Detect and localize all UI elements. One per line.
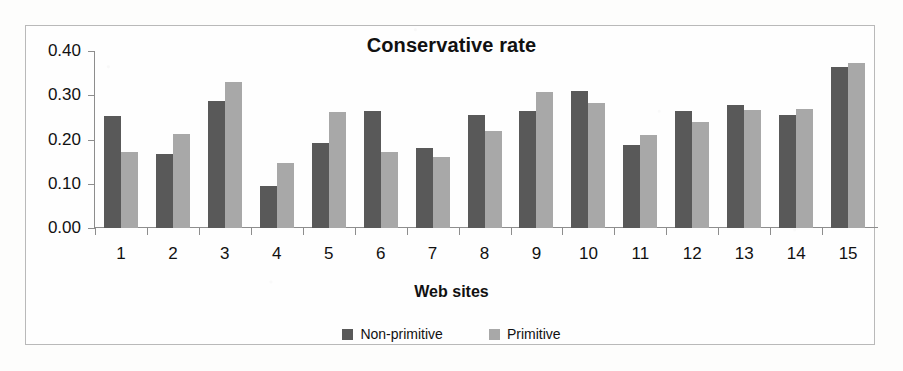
legend-swatch-icon bbox=[489, 329, 500, 340]
bar-non-primitive[interactable] bbox=[571, 91, 588, 228]
x-axis-tick bbox=[770, 228, 771, 235]
chart-legend: Non-primitivePrimitive bbox=[0, 326, 903, 342]
y-axis-tick bbox=[88, 228, 95, 229]
plot-area: 0.400.300.200.100.00 1234567891011121314… bbox=[95, 51, 874, 228]
x-axis-tick-label: 5 bbox=[303, 244, 355, 264]
bar-primitive[interactable] bbox=[121, 152, 138, 228]
x-axis-tick-label: 11 bbox=[614, 244, 666, 264]
bar-group: 6 bbox=[355, 51, 407, 228]
bar-primitive[interactable] bbox=[485, 131, 502, 228]
x-axis-tick bbox=[251, 228, 252, 235]
bar-primitive[interactable] bbox=[692, 122, 709, 228]
legend-item[interactable]: Non-primitive bbox=[342, 326, 442, 342]
x-axis-tick bbox=[303, 228, 304, 235]
bar-primitive[interactable] bbox=[381, 152, 398, 228]
bar-group: 1 bbox=[95, 51, 147, 228]
bar-primitive[interactable] bbox=[744, 110, 761, 228]
bar-primitive[interactable] bbox=[225, 82, 242, 228]
x-axis-tick bbox=[355, 228, 356, 235]
bar-primitive[interactable] bbox=[433, 157, 450, 228]
bar-non-primitive[interactable] bbox=[675, 111, 692, 228]
bar-group: 4 bbox=[251, 51, 303, 228]
y-axis-tick-label: 0.30 bbox=[21, 85, 81, 105]
bar-group: 13 bbox=[718, 51, 770, 228]
x-axis-tick-label: 4 bbox=[251, 244, 303, 264]
y-axis-tick bbox=[88, 95, 95, 96]
x-axis-tick-label: 1 bbox=[95, 244, 147, 264]
y-axis-tick-label: 0.00 bbox=[21, 218, 81, 238]
x-axis-tick bbox=[459, 228, 460, 235]
x-axis-tick bbox=[199, 228, 200, 235]
bar-group: 14 bbox=[770, 51, 822, 228]
x-axis-tick bbox=[95, 228, 96, 235]
y-axis-tick bbox=[88, 140, 95, 141]
y-axis-tick-label: 0.20 bbox=[21, 130, 81, 150]
y-axis-tick bbox=[88, 51, 95, 52]
bar-non-primitive[interactable] bbox=[468, 115, 485, 228]
bar-primitive[interactable] bbox=[640, 135, 657, 228]
bar-primitive[interactable] bbox=[796, 109, 813, 228]
y-axis-tick bbox=[88, 184, 95, 185]
bar-primitive[interactable] bbox=[329, 112, 346, 228]
bar-primitive[interactable] bbox=[173, 134, 190, 228]
x-axis-tick-label: 13 bbox=[718, 244, 770, 264]
x-axis-tick-label: 3 bbox=[199, 244, 251, 264]
bar-non-primitive[interactable] bbox=[312, 143, 329, 228]
bar-non-primitive[interactable] bbox=[104, 116, 121, 228]
bar-primitive[interactable] bbox=[588, 103, 605, 228]
x-axis-tick bbox=[614, 228, 615, 235]
legend-item[interactable]: Primitive bbox=[489, 326, 561, 342]
bar-group: 15 bbox=[822, 51, 874, 228]
bar-non-primitive[interactable] bbox=[831, 67, 848, 228]
bar-primitive[interactable] bbox=[536, 92, 553, 228]
x-axis-tick bbox=[511, 228, 512, 235]
bar-non-primitive[interactable] bbox=[416, 148, 433, 228]
bar-group: 2 bbox=[147, 51, 199, 228]
legend-label: Primitive bbox=[507, 326, 561, 342]
x-axis-tick-label: 14 bbox=[770, 244, 822, 264]
x-axis-tick bbox=[147, 228, 148, 235]
y-axis-tick-label: 0.40 bbox=[21, 41, 81, 61]
bar-non-primitive[interactable] bbox=[364, 111, 381, 228]
x-axis-tick-label: 2 bbox=[147, 244, 199, 264]
bar-group: 9 bbox=[511, 51, 563, 228]
bar-primitive[interactable] bbox=[848, 63, 865, 228]
x-axis-tick-label: 10 bbox=[562, 244, 614, 264]
bar-chart: Conservative rate 0.400.300.200.100.00 1… bbox=[0, 0, 903, 371]
bar-non-primitive[interactable] bbox=[623, 145, 640, 228]
bar-non-primitive[interactable] bbox=[779, 115, 796, 228]
x-axis-tick-label: 12 bbox=[666, 244, 718, 264]
bar-group: 12 bbox=[666, 51, 718, 228]
x-axis-tick-label: 15 bbox=[822, 244, 874, 264]
bar-non-primitive[interactable] bbox=[156, 154, 173, 228]
bar-group: 3 bbox=[199, 51, 251, 228]
x-axis-tick bbox=[718, 228, 719, 235]
bar-non-primitive[interactable] bbox=[260, 186, 277, 228]
x-axis-tick bbox=[407, 228, 408, 235]
bar-groups: 123456789101112131415 bbox=[95, 51, 874, 228]
x-axis-tick-label: 7 bbox=[407, 244, 459, 264]
bar-primitive[interactable] bbox=[277, 163, 294, 228]
bar-non-primitive[interactable] bbox=[519, 111, 536, 228]
bar-non-primitive[interactable] bbox=[727, 105, 744, 228]
bar-group: 8 bbox=[459, 51, 511, 228]
legend-label: Non-primitive bbox=[360, 326, 442, 342]
bar-group: 7 bbox=[407, 51, 459, 228]
y-axis-tick-label: 0.10 bbox=[21, 174, 81, 194]
x-axis-tick-label: 8 bbox=[459, 244, 511, 264]
bar-group: 5 bbox=[303, 51, 355, 228]
x-axis-tick-label: 9 bbox=[511, 244, 563, 264]
x-axis-tick-label: 6 bbox=[355, 244, 407, 264]
bar-group: 10 bbox=[562, 51, 614, 228]
x-axis-tick bbox=[822, 228, 823, 235]
x-axis-title: Web sites bbox=[0, 283, 903, 301]
bar-group: 11 bbox=[614, 51, 666, 228]
x-axis-tick bbox=[666, 228, 667, 235]
bar-non-primitive[interactable] bbox=[208, 101, 225, 228]
legend-swatch-icon bbox=[342, 329, 353, 340]
x-axis-tick bbox=[562, 228, 563, 235]
